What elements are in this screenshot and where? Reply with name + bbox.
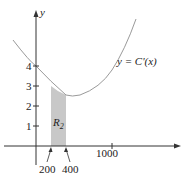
x-tick-label-200: 200	[39, 163, 56, 175]
curve-label: y = C'(x)	[116, 55, 157, 68]
chart: y 4 3 2 1 1000 200 400 R2 y = C'(x)	[0, 0, 183, 179]
pointer-200-arrow-icon	[49, 147, 53, 152]
y-tick-label-3: 3	[26, 80, 32, 92]
y-tick-label-2: 2	[26, 100, 32, 112]
y-axis-label: y	[39, 6, 45, 18]
x-axis-arrow-icon	[174, 144, 181, 149]
y-tick-label-1: 1	[26, 120, 32, 132]
pointer-400-arrow-icon	[64, 147, 68, 152]
y-tick-label-4: 4	[26, 60, 32, 72]
x-tick-label-400: 400	[62, 163, 79, 175]
x-tick-label-1000: 1000	[96, 147, 119, 159]
y-axis-arrow-icon	[34, 10, 39, 17]
